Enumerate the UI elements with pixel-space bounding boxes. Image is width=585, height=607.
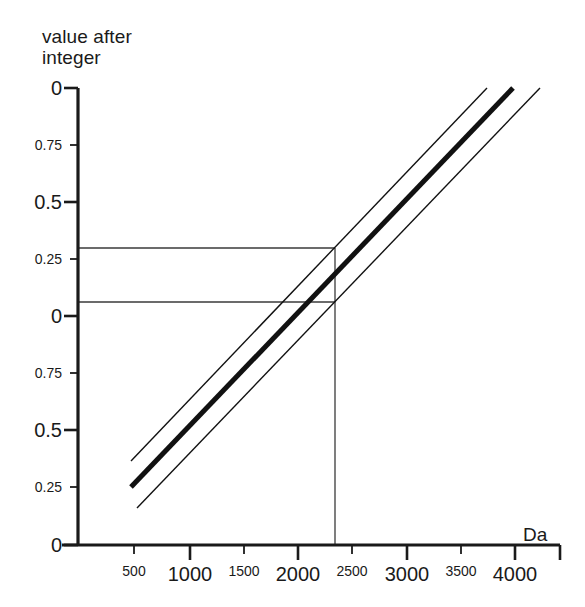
- x-axis-tick-label: 2500: [336, 563, 367, 579]
- y-axis-tick-label: 0.25: [35, 479, 68, 495]
- upper-bound-line: [131, 88, 487, 461]
- y-axis-tick-label: 0.25: [35, 251, 68, 267]
- x-axis-tick-label: 2000: [276, 563, 321, 586]
- x-axis-tick-label: 500: [122, 563, 145, 579]
- center-line: [131, 88, 513, 487]
- y-axis-tick-label: 0.75: [35, 365, 68, 381]
- y-axis-tick-label: 0.5: [34, 419, 68, 442]
- x-axis-tick-label: 4000: [493, 563, 538, 586]
- lower-bound-line: [137, 88, 540, 508]
- plot-canvas: [0, 0, 585, 607]
- y-axis-tick-label: 0: [51, 305, 68, 328]
- readout-guides: [78, 248, 335, 545]
- y-axis-tick-label: 0: [51, 77, 68, 100]
- y-axis-tick-label: 0: [51, 534, 68, 557]
- x-axis-tick-label: 1000: [168, 563, 213, 586]
- x-axis-unit-label: Da: [523, 524, 547, 546]
- x-axis-tick-label: 3500: [445, 563, 476, 579]
- axis-lines: [62, 88, 560, 560]
- x-axis-tick-label: 3000: [385, 563, 430, 586]
- chart-figure: value afterinteger 00.750.50.2500.750.50…: [0, 0, 585, 607]
- y-axis-tick-label: 0.75: [35, 137, 68, 153]
- y-axis-tick-label: 0.5: [34, 191, 68, 214]
- x-axis-tick-label: 1500: [228, 563, 259, 579]
